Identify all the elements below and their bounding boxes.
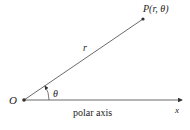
axis-label: polar axis (73, 107, 112, 118)
point-label: P(r, θ) (142, 3, 169, 15)
radius-label: r (83, 42, 87, 53)
origin-label: O (9, 94, 17, 106)
origin-point (22, 98, 26, 102)
point-p (141, 17, 144, 20)
angle-label: θ (53, 88, 58, 99)
angle-arc (45, 86, 49, 100)
x-label: x (174, 105, 179, 115)
polar-diagram: O P(r, θ) r θ polar axis x (0, 0, 190, 130)
radius-line (24, 19, 143, 100)
